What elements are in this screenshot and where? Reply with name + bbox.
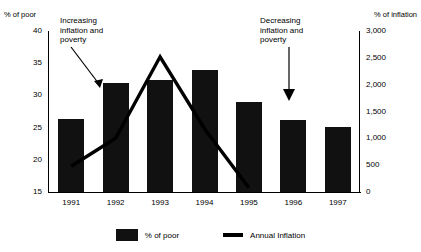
right-tick-2000: 2,000	[366, 81, 386, 89]
chart-legend: % of poor Annual Inflation	[0, 226, 421, 244]
legend-line-label: Annual Inflation	[250, 231, 305, 240]
x-label-1994: 1994	[182, 199, 226, 207]
annotation-increasing-inflation-and-poverty: Increasing inflation and poverty	[60, 16, 103, 45]
inflation-line-series	[49, 31, 360, 192]
right-tick-2500: 2,500	[366, 54, 386, 62]
left-tick-35: 35	[0, 59, 42, 67]
x-label-1997: 1997	[316, 199, 360, 207]
chart-container: % of poor % of inflation 403530252015 3,…	[0, 0, 421, 252]
legend-line-swatch-icon	[223, 233, 243, 236]
right-tick-500: 500	[366, 161, 379, 169]
x-label-1996: 1996	[271, 199, 315, 207]
plot-area	[49, 31, 360, 192]
right-tick-1500: 1,500	[366, 108, 386, 116]
legend-item-bar: % of poor	[116, 229, 179, 241]
right-tick-0: 0	[366, 188, 370, 196]
inflation-polyline	[71, 57, 249, 188]
left-tick-25: 25	[0, 124, 42, 132]
right-axis-title: % of inflation	[374, 10, 417, 19]
legend-bar-swatch-icon	[116, 229, 138, 241]
annotation-decreasing-inflation-and-poverty: Decreasing inflation and poverty	[260, 16, 303, 45]
x-label-1991: 1991	[49, 199, 93, 207]
legend-item-line: Annual Inflation	[223, 231, 305, 240]
left-tick-20: 20	[0, 156, 42, 164]
left-tick-40: 40	[0, 27, 42, 35]
x-label-1995: 1995	[227, 199, 271, 207]
left-tick-30: 30	[0, 91, 42, 99]
legend-bar-label: % of poor	[145, 231, 179, 240]
x-label-1993: 1993	[138, 199, 182, 207]
right-tick-1000: 1,000	[366, 134, 386, 142]
left-axis-title: % of poor	[4, 10, 36, 19]
right-tick-3000: 3,000	[366, 27, 386, 35]
left-tick-15: 15	[0, 188, 42, 196]
x-label-1992: 1992	[93, 199, 137, 207]
